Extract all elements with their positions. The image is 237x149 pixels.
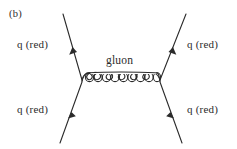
label-quark-upper-left: q (red) [17, 38, 48, 50]
label-quark-lower-right: q (red) [187, 103, 218, 115]
label-quark-upper-right: q (red) [187, 38, 218, 50]
arrowhead-upper-right [169, 47, 177, 55]
gluon-loop-7 [136, 73, 144, 82]
feynman-diagram-figure: (b) q (red) q (red) q (red) q (red) gluo… [0, 0, 237, 149]
fermion-line-incoming-lower-right [160, 82, 182, 143]
label-quark-lower-left: q (red) [17, 103, 48, 115]
diagram-canvas [0, 0, 237, 149]
fermion-line-incoming-lower-left [60, 82, 82, 143]
panel-label: (b) [9, 8, 22, 19]
arrowhead-upper-left [69, 47, 77, 55]
arrowhead-lower-right [166, 112, 174, 119]
label-gluon: gluon [106, 54, 133, 66]
fermion-lines [60, 14, 186, 143]
arrowhead-lower-left [68, 112, 76, 119]
